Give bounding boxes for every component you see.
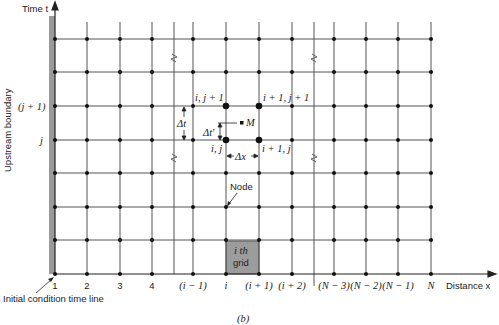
grid-node xyxy=(364,70,368,74)
grid-node xyxy=(332,171,336,175)
grid-node xyxy=(257,171,261,175)
grid-node xyxy=(118,205,122,209)
grid-node xyxy=(150,37,154,41)
grid-node xyxy=(224,238,228,242)
grid-node xyxy=(364,138,368,142)
grid-node xyxy=(150,238,154,242)
grid-node xyxy=(224,37,228,41)
grid-node xyxy=(191,37,195,41)
node-callout-label: Node xyxy=(230,181,253,192)
grid-node xyxy=(85,272,89,276)
point-m-marker xyxy=(240,121,244,125)
node-i-j1 xyxy=(223,103,230,110)
grid-node xyxy=(118,238,122,242)
grid-node xyxy=(53,37,57,41)
grid-node xyxy=(429,205,433,209)
grid-node xyxy=(150,70,154,74)
grid-node xyxy=(118,104,122,108)
grid-node xyxy=(53,272,57,276)
grid-node xyxy=(150,272,154,276)
grid-node xyxy=(396,272,400,276)
grid-node xyxy=(332,70,336,74)
grid-node xyxy=(53,205,57,209)
x-tick-labels: 1234(i − 1)i(i + 1)(i + 2)(N − 3)(N − 2)… xyxy=(52,280,435,292)
node-label-i-j1: i, j + 1 xyxy=(195,92,224,103)
distance-axis-label: Distance x xyxy=(446,280,491,291)
grid-node xyxy=(85,171,89,175)
grid-node xyxy=(429,272,433,276)
upstream-boundary-bar xyxy=(49,16,55,274)
break-icon xyxy=(311,154,317,162)
break-icon xyxy=(171,154,177,162)
grid-node xyxy=(396,37,400,41)
grid-node xyxy=(290,205,294,209)
grid-node xyxy=(118,171,122,175)
x-tick-label: (i + 1) xyxy=(245,280,273,292)
grid-node xyxy=(332,138,336,142)
grid-node xyxy=(191,171,195,175)
grid-node xyxy=(332,205,336,209)
grid-node xyxy=(118,37,122,41)
grid-node xyxy=(332,37,336,41)
grid-node xyxy=(290,238,294,242)
grid-node xyxy=(224,70,228,74)
grid-node xyxy=(53,104,57,108)
x-tick-label: (i + 2) xyxy=(278,280,306,292)
y-tick-j-plus-1: (j + 1) xyxy=(18,101,46,113)
initial-condition-label: Initial condition time line xyxy=(3,293,104,304)
grid-node xyxy=(53,238,57,242)
initial-condition-pointer xyxy=(36,279,52,293)
grid-node xyxy=(257,205,261,209)
grid-node xyxy=(257,272,261,276)
x-tick-label: N xyxy=(426,280,435,291)
grid-node xyxy=(332,104,336,108)
grid-node xyxy=(118,138,122,142)
grid-node xyxy=(53,138,57,142)
node-label-i-j: i, j xyxy=(211,143,222,154)
x-tick-label: (i − 1) xyxy=(179,280,207,292)
grid-node xyxy=(429,171,433,175)
grid-node xyxy=(191,104,195,108)
delta-t-prime-label: Δt' xyxy=(202,127,215,138)
grid-node xyxy=(429,104,433,108)
ith-grid-label-line2: grid xyxy=(233,257,249,268)
grid-node xyxy=(290,171,294,175)
grid-node xyxy=(85,70,89,74)
grid-node xyxy=(364,272,368,276)
upstream-boundary-label: Upstream boundary xyxy=(2,88,13,172)
x-tick-label: 1 xyxy=(52,280,57,291)
grid-node xyxy=(290,104,294,108)
grid-node xyxy=(396,171,400,175)
grid-node xyxy=(364,238,368,242)
time-axis-arrow-icon xyxy=(52,2,58,10)
x-tick-label: i xyxy=(225,280,228,291)
grid-node xyxy=(85,138,89,142)
grid-node xyxy=(396,238,400,242)
grid-node xyxy=(364,171,368,175)
grid-node xyxy=(396,104,400,108)
grid-node xyxy=(85,37,89,41)
grid-node xyxy=(224,171,228,175)
node-label-i1-j: i + 1, j xyxy=(262,143,291,154)
grid-node xyxy=(396,205,400,209)
break-icon xyxy=(171,54,177,62)
grid-node xyxy=(257,70,261,74)
grid-node xyxy=(396,70,400,74)
grid-node xyxy=(191,272,195,276)
grid-node xyxy=(429,138,433,142)
grid-node xyxy=(191,205,195,209)
grid-node xyxy=(290,37,294,41)
grid-node xyxy=(191,70,195,74)
break-icon xyxy=(311,54,317,62)
node-label-i1-j1: i + 1, j + 1 xyxy=(263,92,309,103)
grid-node xyxy=(191,138,195,142)
distance-axis-arrow-icon xyxy=(488,271,496,277)
y-tick-j: j xyxy=(38,135,43,146)
grid-node xyxy=(364,104,368,108)
figure-caption: (b) xyxy=(237,313,250,325)
x-tick-label: (N − 2) xyxy=(350,280,382,292)
grid-node xyxy=(429,70,433,74)
x-tick-label: 2 xyxy=(84,280,89,291)
time-axis-label: Time t xyxy=(22,3,48,14)
grid-node xyxy=(429,37,433,41)
